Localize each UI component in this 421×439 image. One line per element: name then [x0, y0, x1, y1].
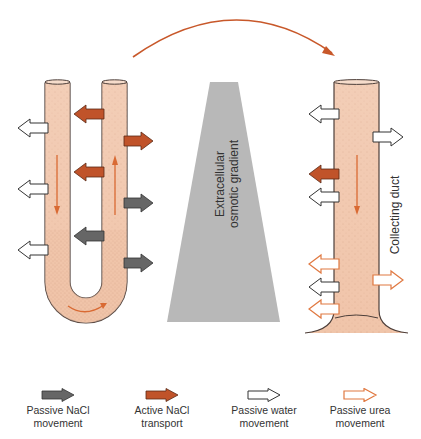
legend-item-passive-urea: Passive ureamovement [310, 388, 410, 430]
passive-water-arrow [18, 180, 48, 198]
passive-nacl-arrow [124, 194, 153, 212]
gradient-label-line2: osmotic gradient [227, 129, 241, 239]
passive-urea-arrow-icon [342, 388, 378, 402]
transition-arc-arrow [133, 20, 335, 57]
legend: Passive NaClmovement Active NaCltranspor… [0, 388, 421, 439]
active-nacl-arrow [74, 105, 104, 123]
legend-item-active-nacl: Active NaCltransport [112, 388, 212, 430]
passive-water-arrow [18, 119, 48, 137]
kidney-diagram [0, 0, 421, 380]
legend-label: Passive ureamovement [310, 404, 410, 430]
legend-label: Passive NaClmovement [8, 404, 108, 430]
active-nacl-arrow-icon [144, 388, 180, 402]
legend-item-passive-water: Passive watermovement [214, 388, 314, 430]
passive-water-arrow-icon [246, 388, 282, 402]
legend-label: Active NaCltransport [112, 404, 212, 430]
gradient-label-line1: Extracellular [213, 129, 227, 239]
passive-nacl-arrow-icon [40, 388, 76, 402]
active-nacl-arrow [74, 163, 104, 181]
passive-nacl-arrow [124, 254, 153, 272]
collecting-duct-label: Collecting duct [388, 160, 402, 270]
gradient-label: Extracellular osmotic gradient [213, 129, 241, 239]
passive-water-arrow [18, 241, 48, 259]
legend-item-passive-nacl: Passive NaClmovement [8, 388, 108, 430]
legend-label: Passive watermovement [214, 404, 314, 430]
active-nacl-arrow [124, 132, 153, 150]
passive-nacl-arrow [74, 227, 104, 245]
